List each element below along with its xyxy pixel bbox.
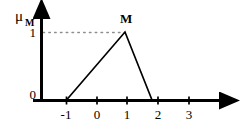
x-tick-label-2: 2 (148, 108, 168, 121)
membership-triangle (67, 32, 153, 100)
peak-label-m: M (120, 12, 132, 25)
y-axis-symbol-mu: μ (15, 9, 23, 24)
x-tick-label--1: -1 (56, 108, 76, 121)
y-tick-label-1: 1 (22, 26, 36, 39)
y-tick-label-0: 0 (22, 88, 36, 101)
x-tick-label-3: 3 (179, 108, 199, 121)
fuzzy-membership-figure: μ M 1 0 -1 0 1 2 3 M (0, 0, 241, 128)
x-tick-label-0: 0 (87, 108, 107, 121)
x-tick-label-1: 1 (117, 108, 137, 121)
